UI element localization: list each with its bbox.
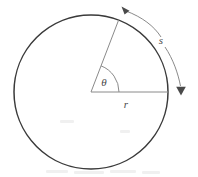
angle-label-theta: θ xyxy=(101,76,107,88)
arrow-head-upper-icon xyxy=(122,7,130,15)
circle-arc-diagram: θ r s xyxy=(0,0,198,177)
arc-length-arrow-upper-segment xyxy=(126,11,161,37)
arc-length-label-s: s xyxy=(159,34,163,46)
scan-artifacts xyxy=(46,120,160,174)
diagram-canvas: θ r s xyxy=(0,0,198,177)
arrow-head-lower-icon xyxy=(176,87,186,96)
radius-label-r: r xyxy=(124,98,129,110)
arc-length-arrow xyxy=(122,7,186,96)
